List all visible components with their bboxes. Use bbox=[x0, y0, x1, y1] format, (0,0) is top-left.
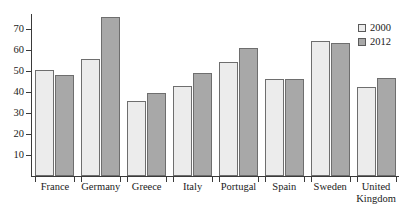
bar-germany-2000 bbox=[81, 59, 100, 176]
bar-sweden-2000 bbox=[311, 41, 330, 176]
x-category-label: Spain bbox=[261, 181, 307, 193]
plot-area bbox=[32, 14, 399, 176]
bar-spain-2012 bbox=[285, 79, 304, 176]
bar-germany-2012 bbox=[101, 17, 120, 176]
bar-italy-2012 bbox=[193, 73, 212, 176]
chart-legend: 20002012 bbox=[358, 22, 391, 50]
bar-portugal-2012 bbox=[239, 48, 258, 176]
x-category-label: Greece bbox=[124, 181, 170, 193]
y-tick-label: 60 bbox=[0, 45, 24, 55]
bar-group bbox=[127, 14, 166, 176]
bar-group bbox=[173, 14, 212, 176]
bar-greece-2000 bbox=[127, 101, 146, 176]
y-tick-value: 20 bbox=[2, 129, 24, 139]
y-tick-label: 30 bbox=[0, 108, 24, 118]
bar-spain-2000 bbox=[265, 79, 284, 176]
bar-group bbox=[35, 14, 74, 176]
y-tick-mark bbox=[26, 50, 31, 51]
y-tick-label: 70 bbox=[0, 24, 24, 34]
y-tick-mark bbox=[26, 155, 31, 156]
x-category-label: Sweden bbox=[307, 181, 353, 193]
y-tick-value: 60 bbox=[2, 45, 24, 55]
bar-greece-2012 bbox=[147, 93, 166, 176]
bar-france-2012 bbox=[55, 75, 74, 176]
bar-chart: 10203040506070 FranceGermanyGreeceItalyP… bbox=[0, 0, 405, 208]
y-tick-mark bbox=[26, 29, 31, 30]
y-tick-mark bbox=[26, 92, 31, 93]
bar-italy-2000 bbox=[173, 86, 192, 176]
y-tick-value: 30 bbox=[2, 108, 24, 118]
legend-label: 2000 bbox=[370, 23, 391, 33]
chart-title-remnant bbox=[44, 0, 224, 1]
legend-swatch-2000 bbox=[358, 24, 366, 32]
bar-sweden-2012 bbox=[331, 43, 350, 176]
bar-portugal-2000 bbox=[219, 62, 238, 176]
x-category-label: Germany bbox=[78, 181, 124, 193]
y-tick-label: 20 bbox=[0, 129, 24, 139]
bar-group bbox=[81, 14, 120, 176]
x-category-label: France bbox=[32, 181, 78, 193]
y-tick-value: 40 bbox=[2, 87, 24, 97]
y-tick-mark bbox=[26, 71, 31, 72]
bar-united-kingdom-2012 bbox=[377, 78, 396, 176]
legend-swatch-2012 bbox=[358, 38, 366, 46]
bar-group bbox=[311, 14, 350, 176]
legend-item-2000[interactable]: 2000 bbox=[358, 22, 391, 34]
y-tick-mark bbox=[26, 113, 31, 114]
y-tick-value: 70 bbox=[2, 24, 24, 34]
x-category-label: United Kingdom bbox=[353, 181, 399, 205]
y-tick-label: 50 bbox=[0, 66, 24, 76]
x-category-label: Italy bbox=[170, 181, 216, 193]
y-tick-mark bbox=[26, 134, 31, 135]
y-tick-value: 10 bbox=[2, 150, 24, 160]
bar-group bbox=[265, 14, 304, 176]
x-category-label: Portugal bbox=[216, 181, 262, 193]
y-tick-label: 10 bbox=[0, 150, 24, 160]
y-tick-value: 50 bbox=[2, 66, 24, 76]
legend-item-2012[interactable]: 2012 bbox=[358, 36, 391, 48]
y-tick-label: 40 bbox=[0, 87, 24, 97]
x-axis-line bbox=[31, 176, 399, 177]
bar-united-kingdom-2000 bbox=[357, 87, 376, 176]
legend-label: 2012 bbox=[370, 37, 391, 47]
bar-france-2000 bbox=[35, 70, 54, 176]
bar-group bbox=[219, 14, 258, 176]
